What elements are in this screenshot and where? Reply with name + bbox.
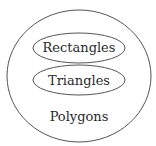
venn-diagram: Rectangles Triangles Polygons	[0, 0, 156, 146]
triangles-label: Triangles	[48, 73, 110, 88]
rectangles-label: Rectangles	[43, 40, 116, 55]
polygons-label: Polygons	[50, 109, 109, 124]
